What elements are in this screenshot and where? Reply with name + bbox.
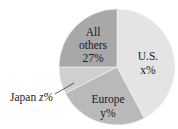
- label-europe-name: Europe: [91, 93, 124, 106]
- label-europe-value: y%: [100, 107, 116, 120]
- label-others-line2: others: [79, 39, 108, 51]
- pie-slices: [59, 9, 175, 125]
- label-japan-value: z%: [38, 91, 53, 103]
- label-us-value: x%: [140, 64, 156, 76]
- label-others-line1: All: [86, 26, 101, 38]
- label-others-value: 27%: [82, 52, 104, 64]
- pie-chart: U.S. x% Europe y% Japan z% All others 27…: [0, 0, 178, 129]
- label-japan-name: Japan: [10, 91, 36, 104]
- label-japan: Japan z%: [10, 91, 53, 104]
- label-us-name: U.S.: [138, 50, 159, 62]
